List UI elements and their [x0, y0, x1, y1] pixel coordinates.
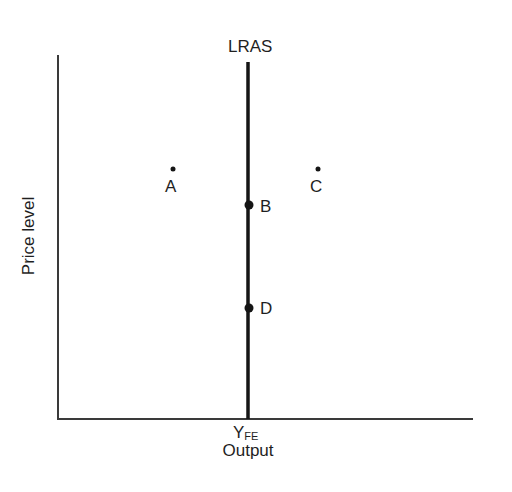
point-c-marker — [316, 167, 321, 172]
x-axis-label: Output — [222, 441, 273, 461]
yfe-base: Y — [233, 423, 244, 442]
point-b-marker — [245, 201, 254, 210]
point-b-label: B — [260, 198, 271, 215]
yfe-tick-label: YFE — [233, 423, 258, 443]
point-a-label: A — [165, 178, 176, 195]
point-d-marker — [245, 304, 254, 313]
y-axis-label: Price level — [19, 197, 39, 275]
diagram-canvas — [0, 0, 512, 492]
point-d-label: D — [260, 300, 272, 317]
point-c-label: C — [310, 178, 322, 195]
lras-label: LRAS — [228, 38, 272, 55]
point-a-marker — [171, 167, 176, 172]
